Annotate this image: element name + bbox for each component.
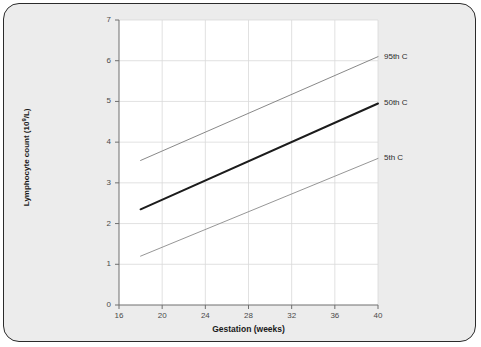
figure-frame: 01234567 16202428323640 95th C50th C5th … bbox=[3, 3, 476, 342]
series-label-95th-c: 95th C bbox=[384, 53, 408, 61]
x-axis-tick-label: 16 bbox=[107, 312, 131, 320]
y-axis-title-prefix: Lymphocyte count (10 bbox=[22, 122, 31, 207]
series-line-50th-c bbox=[141, 103, 378, 209]
y-axis-tick-label: 1 bbox=[91, 260, 111, 268]
series-line-5th-c bbox=[141, 158, 378, 256]
y-axis-tick-label: 6 bbox=[91, 57, 111, 65]
series-label-50th-c: 50th C bbox=[384, 99, 408, 107]
y-axis-tick-label: 0 bbox=[91, 301, 111, 309]
series-line-95th-c bbox=[141, 57, 378, 161]
y-axis-tick-label: 3 bbox=[91, 179, 111, 187]
y-axis-tick-label: 7 bbox=[91, 16, 111, 24]
x-axis-tick-label: 36 bbox=[323, 312, 347, 320]
y-axis-tick-label: 4 bbox=[91, 138, 111, 146]
x-axis-tick-label: 20 bbox=[150, 312, 174, 320]
chart-figure: 01234567 16202428323640 95th C50th C5th … bbox=[4, 4, 476, 342]
x-axis-tick-label: 32 bbox=[280, 312, 304, 320]
x-axis-tick-label: 40 bbox=[366, 312, 390, 320]
y-axis-title-suffix: /L) bbox=[22, 108, 31, 118]
x-axis-tick-label: 28 bbox=[237, 312, 261, 320]
y-axis-title: Lymphocyte count (109/L) bbox=[21, 87, 32, 227]
y-axis-tick-label: 5 bbox=[91, 97, 111, 105]
y-axis-title-exponent: 9 bbox=[21, 118, 27, 121]
x-axis-tick-label: 24 bbox=[193, 312, 217, 320]
series-label-5th-c: 5th C bbox=[384, 154, 403, 162]
x-axis-title: Gestation (weeks) bbox=[119, 324, 378, 334]
y-axis-tick-label: 2 bbox=[91, 220, 111, 228]
